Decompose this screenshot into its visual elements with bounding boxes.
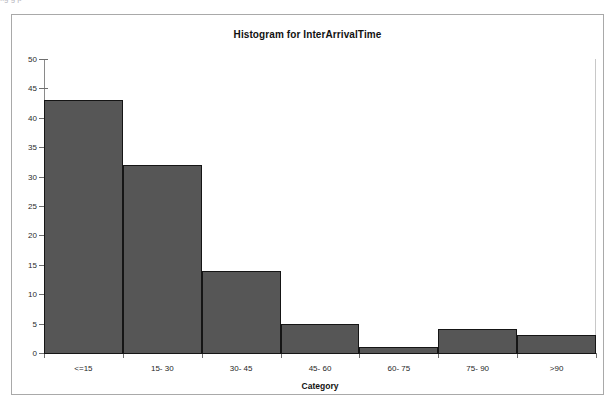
x-tick-label: <=15 [74,364,92,373]
x-tick-label: 60- 75 [388,364,411,373]
histogram-bar [202,271,281,354]
y-tick-label: 30 [28,172,37,181]
y-tick-label: 10 [28,290,37,299]
y-tick-label: 45 [28,84,37,93]
x-tick-label: 30- 45 [230,364,253,373]
histogram-bar [359,347,438,354]
x-tick-label: 75- 90 [466,364,489,373]
plot-area: 05101520253035404550 <=1515- 3030- 4545-… [44,59,596,354]
x-tick-label: >90 [550,364,564,373]
histogram-bar [123,165,202,354]
x-tick-label: 15- 30 [151,364,174,373]
y-tick-label: 50 [28,55,37,64]
histogram-bar [44,100,123,354]
y-tick-mark [39,59,48,60]
plot-right-border [595,59,596,354]
y-tick-label: 15 [28,260,37,269]
y-tick-label: 35 [28,143,37,152]
histogram-bar [438,329,517,354]
y-tick-label: 40 [28,113,37,122]
y-tick-mark [39,88,48,89]
x-axis-title: Category [44,381,596,391]
histogram-bar [517,335,596,354]
top-cut-text: fig g p [0,0,22,3]
y-tick-label: 25 [28,202,37,211]
x-tick-mark [596,353,597,358]
y-tick-label: 0 [33,349,37,358]
chart-frame: Histogram for InterArrivalTime 051015202… [11,14,604,395]
chart-title: Histogram for InterArrivalTime [12,29,603,40]
y-tick-label: 20 [28,231,37,240]
histogram-bar [281,324,360,354]
x-tick-label: 45- 60 [309,364,332,373]
top-cut-text-strip: fig g p [0,0,614,10]
y-tick-label: 5 [33,319,37,328]
